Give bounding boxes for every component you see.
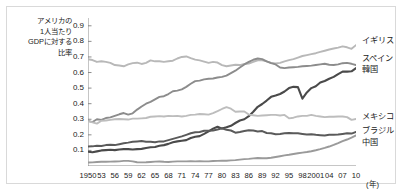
y-axis-tick-label: 0.3: [64, 115, 84, 123]
y-axis-tick-label: 0.8: [64, 37, 84, 45]
y-axis-tick-label: 0.9: [64, 22, 84, 30]
y-axis-tick-label: 0.6: [64, 69, 84, 77]
x-axis-unit-label: (年): [366, 178, 379, 189]
plot-svg: [88, 18, 356, 166]
y-axis-tick-label: 0.5: [64, 84, 84, 92]
y-axis-tick-label: 0.4: [64, 100, 84, 108]
x-axis-tick-label: 10: [345, 172, 367, 180]
y-axis-title: アメリカの 1人当たり GDPに対する 比率: [4, 16, 72, 58]
series-label-韓国: 韓国: [362, 65, 378, 74]
series-label-スペイン: スペイン: [362, 54, 393, 63]
series-label-ブラジル: ブラジル: [362, 126, 394, 135]
plot-area: [88, 18, 356, 166]
series-label-イギリス: イギリス: [362, 36, 394, 45]
series-label-中国: 中国: [362, 138, 378, 147]
chart-figure: アメリカの 1人当たり GDPに対する 比率 0.90.80.70.60.50.…: [0, 0, 402, 195]
y-axis-tick-label: 0.2: [64, 131, 84, 139]
series-label-メキシコ: メキシコ: [362, 112, 394, 121]
y-axis-tick-label: 0.1: [64, 146, 84, 154]
y-axis-tick-label: 0.7: [64, 53, 84, 61]
